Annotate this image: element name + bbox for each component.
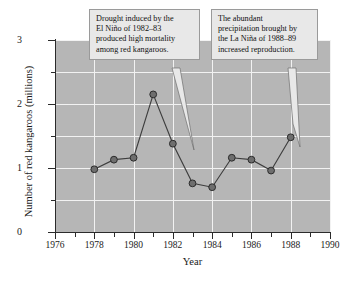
annotation-drought-line-1: Drought induced by the xyxy=(96,14,194,24)
annotation-drought-line-4: among red kangaroos. xyxy=(96,45,194,55)
data-point xyxy=(189,180,196,187)
annotation-drought: Drought induced by the El Niño of 1982–8… xyxy=(89,9,200,60)
data-point xyxy=(169,140,176,147)
data-point xyxy=(111,156,118,163)
annotation-precipitation-line-1: The abundant xyxy=(218,14,312,24)
annotation-precipitation-line-3: the La Niña of 1988–89 xyxy=(218,34,312,44)
data-point xyxy=(228,154,235,161)
annotation-precipitation-line-4: increased reproduction. xyxy=(218,45,312,55)
data-point xyxy=(209,184,216,191)
data-point xyxy=(268,167,275,174)
data-point xyxy=(287,134,294,141)
data-point xyxy=(130,154,137,161)
annotation-precipitation-line-2: precipitation brought by xyxy=(218,24,312,34)
data-point xyxy=(91,166,98,173)
leader-line-drought xyxy=(172,68,194,150)
data-point xyxy=(150,91,157,98)
data-point xyxy=(248,156,255,163)
annotation-leader-lines xyxy=(172,68,300,150)
annotation-drought-line-3: produced high mortality xyxy=(96,34,194,44)
chart-figure: 0123 19761978198019821984198619881990 Nu… xyxy=(0,0,360,281)
annotation-drought-line-2: El Niño of 1982–83 xyxy=(96,24,194,34)
annotation-precipitation: The abundant precipitation brought by th… xyxy=(211,9,318,60)
